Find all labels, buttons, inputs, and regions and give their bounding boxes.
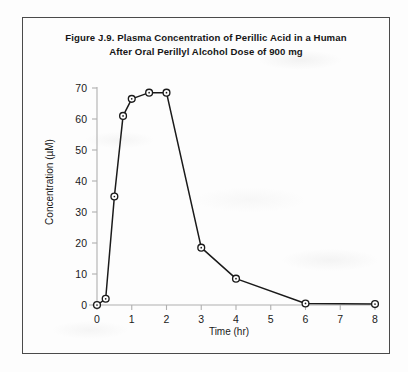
x-tick-label: 2 bbox=[164, 313, 170, 325]
data-point bbox=[146, 89, 153, 96]
y-axis-label: Concentration (µM) bbox=[44, 139, 55, 225]
data-point bbox=[163, 89, 170, 96]
x-tick-labels: 012345678 bbox=[94, 313, 378, 325]
data-point bbox=[302, 300, 309, 307]
x-tick-label: 3 bbox=[198, 313, 204, 325]
line-chart: 010203040506070 012345678 Time (hr) Conc… bbox=[22, 17, 390, 354]
y-tick-label: 70 bbox=[75, 82, 87, 94]
y-tick-label: 50 bbox=[75, 144, 87, 156]
y-tick-labels: 010203040506070 bbox=[75, 82, 87, 311]
figure-page: Figure J.9. Plasma Concentration of Peri… bbox=[0, 0, 408, 372]
data-point bbox=[128, 95, 135, 102]
data-point bbox=[94, 302, 101, 309]
y-tick-label: 40 bbox=[75, 175, 87, 187]
data-point bbox=[102, 295, 109, 302]
y-tick-label: 10 bbox=[75, 268, 87, 280]
y-tick-label: 20 bbox=[75, 237, 87, 249]
x-tick-label: 4 bbox=[233, 313, 239, 325]
x-tick-label: 7 bbox=[337, 313, 343, 325]
data-point bbox=[120, 113, 127, 120]
data-series-layer bbox=[94, 89, 379, 308]
x-tick-label: 1 bbox=[129, 313, 135, 325]
x-axis-label: Time (hr) bbox=[209, 326, 249, 337]
y-tick-label: 0 bbox=[81, 299, 87, 311]
data-point bbox=[111, 193, 118, 200]
x-tick-label: 8 bbox=[372, 313, 378, 325]
data-point bbox=[198, 244, 205, 251]
x-tick-label: 5 bbox=[268, 313, 274, 325]
y-tick-label: 30 bbox=[75, 206, 87, 218]
y-tick-label: 60 bbox=[75, 113, 87, 125]
data-point bbox=[233, 275, 240, 282]
data-point bbox=[372, 301, 379, 308]
x-tick-label: 0 bbox=[94, 313, 100, 325]
chart-plot-area: 010203040506070 012345678 Time (hr) Conc… bbox=[22, 17, 390, 354]
x-tick-label: 6 bbox=[303, 313, 309, 325]
